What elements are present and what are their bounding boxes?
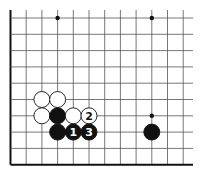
star-point-icon	[150, 16, 154, 20]
star-point-icon	[150, 114, 154, 118]
star-point-icon	[55, 16, 59, 20]
black-stone	[50, 124, 66, 140]
black-stone	[50, 108, 66, 124]
white-stone	[34, 92, 50, 108]
white-stone-move-2: 2	[81, 108, 97, 124]
black-stone-move-3: 3	[81, 124, 97, 140]
move-number-label: 3	[85, 126, 93, 139]
black-stone	[144, 124, 160, 140]
move-number-label: 2	[85, 110, 93, 123]
go-board: 213	[0, 0, 201, 175]
white-stone	[65, 108, 81, 124]
black-stone-move-1: 1	[65, 124, 81, 140]
board-grid	[11, 10, 194, 165]
white-stone	[50, 92, 66, 108]
white-stone	[34, 108, 50, 124]
move-number-label: 1	[69, 126, 77, 139]
